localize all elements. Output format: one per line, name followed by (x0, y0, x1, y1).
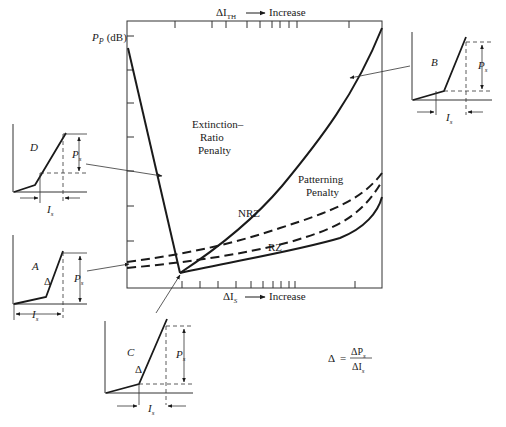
extinction-ratio-curve (128, 48, 180, 273)
main-plot: Extinction– Ratio Penalty Patterning Pen… (91, 6, 382, 305)
extinction-label-line2: Ratio (200, 131, 224, 143)
diagram-canvas: Extinction– Ratio Penalty Patterning Pen… (0, 0, 506, 427)
svg-text:Δ: Δ (135, 363, 142, 375)
inset-b-label: B (431, 56, 438, 68)
extinction-label-line3: Penalty (198, 144, 231, 156)
svg-text:=: = (340, 352, 346, 364)
patterning-label-line1: Patterning (298, 173, 344, 185)
inset-a: A Δ Ps Is (13, 235, 87, 323)
nrz-label: NRZ (238, 207, 260, 219)
svg-text:Is: Is (46, 203, 54, 218)
svg-text:Δ: Δ (44, 275, 51, 287)
bottom-axis-ticks (182, 281, 355, 288)
inset-b: B Ps Is (412, 32, 492, 126)
svg-text:Increase: Increase (269, 6, 306, 18)
rz-label: RZ (268, 241, 282, 253)
plot-frame (127, 21, 382, 288)
svg-text:Is: Is (147, 402, 155, 417)
inset-c: C Δ Ps Is (105, 319, 193, 417)
delta-formula: Δ = ΔPs ΔIs (328, 346, 372, 375)
extinction-label-line1: Extinction– (192, 118, 244, 130)
svg-text:Is: Is (445, 111, 453, 126)
svg-text:Is: Is (31, 308, 39, 323)
inset-c-label: C (127, 346, 135, 358)
inset-d-label: D (29, 141, 38, 153)
bottom-axis-label: ΔIS Increase (223, 290, 306, 305)
patterning-label-line2: Penalty (306, 186, 339, 198)
y-axis-label: PP(dB) (91, 31, 127, 46)
svg-text:Ps: Ps (71, 148, 82, 163)
svg-text:Increase: Increase (269, 290, 306, 302)
top-axis-label: ΔITH Increase (216, 6, 306, 21)
svg-text:ΔIS: ΔIS (223, 290, 238, 305)
leader-lines (86, 66, 410, 313)
svg-text:ΔIs: ΔIs (352, 361, 365, 375)
inset-d: D Ps Is (13, 124, 87, 218)
svg-text:ΔITH: ΔITH (216, 6, 236, 21)
svg-text:Ps: Ps (73, 272, 84, 287)
rz-solid-curve (180, 197, 382, 273)
inset-a-label: A (31, 260, 39, 272)
rz-dashed-curve (127, 181, 382, 268)
svg-text:Δ: Δ (328, 352, 335, 364)
top-axis-ticks (175, 21, 349, 28)
